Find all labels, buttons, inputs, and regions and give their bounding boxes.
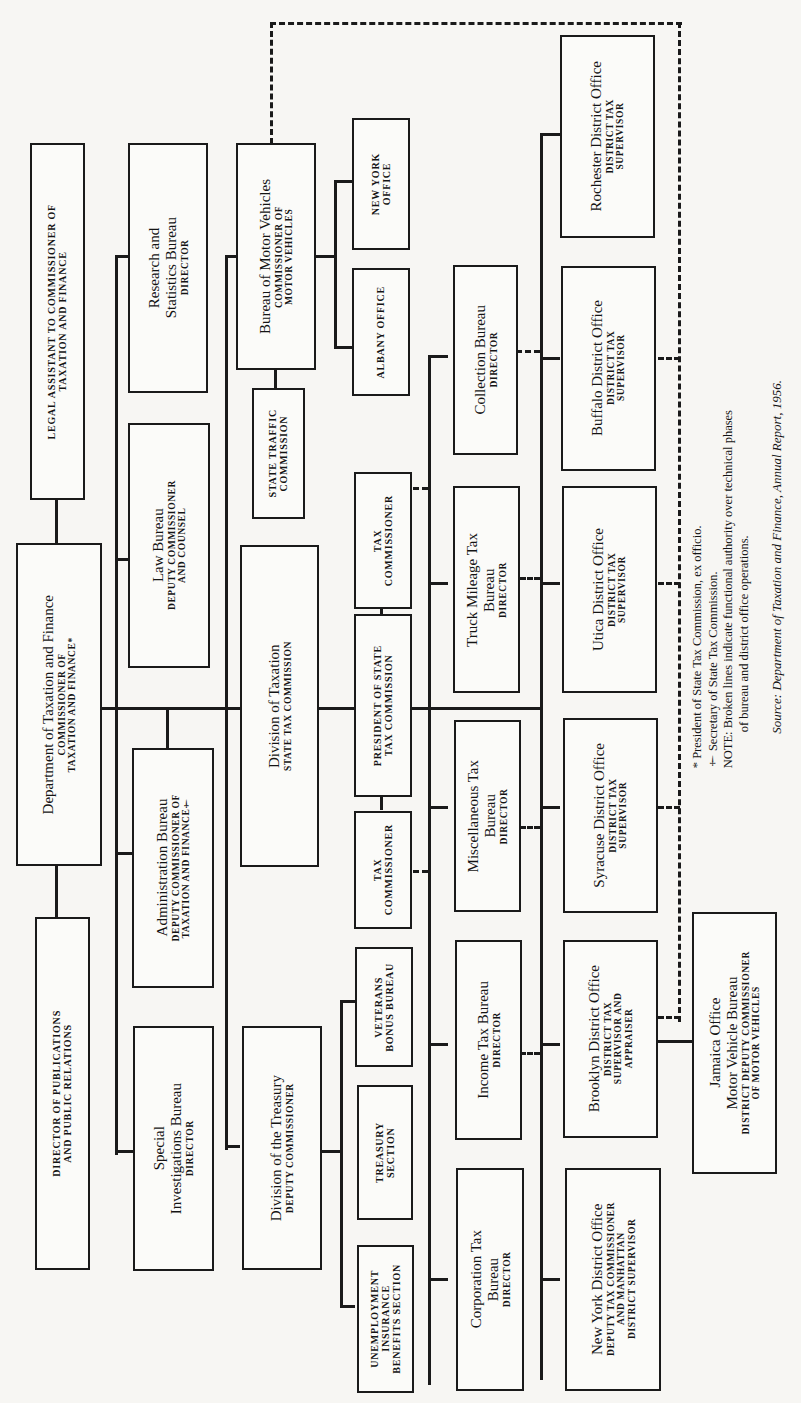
box-unemployment-insurance: UNEMPLOYMENTINSURANCEBENEFITS SECTION [357,1245,414,1393]
box-syracuse-district: Syracuse District OfficeDISTRICT TAXSUPE… [563,718,658,913]
box-rochester-district: Rochester District OfficeDISTRICT TAXSUP… [560,35,655,238]
connector-dept-pubrel [55,865,58,917]
connector-treasury [225,1145,240,1148]
dashed-left [270,22,273,144]
box-brooklyn-district: Brooklyn District OfficeDISTRICT TAXSUPE… [563,940,658,1138]
dashed-collection [516,350,540,353]
connector-rochester [540,133,560,136]
connector-district-spine [540,133,543,1380]
dashed-tc1 [413,487,428,490]
box-veterans-bonus: VETERANSBONUS BUREAU [355,947,413,1067]
connector-admin [166,707,169,749]
box-new-york-office: NEW YORKOFFICE [352,118,410,250]
connector-bmv-offices [314,255,334,258]
connector-offices-spine [334,180,337,348]
connector-collection [428,355,448,358]
box-utica-district: Utica District OfficeDISTRICT TAXSUPERVI… [562,486,657,693]
connector-income [428,1043,448,1046]
dashed-to-utica [658,582,680,585]
connector-treasury-spine [340,1000,343,1305]
box-corporation-tax: Corporation TaxBureauDIRECTOR [456,1168,524,1391]
dashed-misc [520,826,540,829]
dashed-right [678,22,681,1022]
dashed-to-syracuse [658,806,680,809]
footnote-note-cont: of bureau and district office operations… [737,410,753,768]
connector-president-tc2 [380,795,383,810]
box-motor-vehicles: Bureau of Motor VehiclesCOMMISSIONER OFM… [236,143,316,370]
connector-dept-legal [55,500,58,545]
connector-admin2 [115,852,133,855]
connector-brooklyn [540,1043,560,1046]
connector-utica [540,582,560,585]
footnote-dagger: † Secretary of State Tax Commission. [706,410,722,768]
connector-taxbureau-link [428,707,543,710]
connector-corp [428,1278,448,1281]
footnotes: * President of State Tax Commission, ex … [690,410,770,970]
box-collection-bureau: Collection BureauDIRECTOR [453,265,518,455]
connector-buffalo [540,357,560,360]
box-department: Department of Taxation and FinanceCOMMIS… [16,543,102,866]
dashed-truck [520,577,540,580]
box-legal-assistant: LEGAL ASSISTANT TO COMMISSIONER OFTAXATI… [30,143,85,500]
connector-special [115,1150,133,1153]
box-president-tax-commission: PRESIDENT OF STATETAX COMMISSION [354,614,412,797]
box-administration: Administration BureauDEPUTY COMMISSIONER… [132,748,214,988]
dashed-top [270,22,682,25]
source-citation: Source: Department of Taxation and Finan… [770,380,785,1060]
source-label: Source: [769,694,784,734]
connector-albany [334,346,352,349]
box-state-traffic: STATE TRAFFICCOMMISSION [252,388,305,519]
box-special-investigations: SpecialInvestigations BureauDIRECTOR [133,1026,214,1271]
dashed-to-buffalo [658,357,680,360]
connector-nydistrict [540,1278,560,1281]
box-buffalo-district: Buffalo District OfficeDISTRICT TAXSUPER… [561,266,656,471]
box-division-taxation: Division of TaxationSTATE TAX COMMISSION [240,545,319,867]
box-research: Research andStatistics BureauDIRECTOR [128,143,208,393]
connector-divisions-spine [225,255,228,1150]
box-treasury-section: TREASURYSECTION [357,1085,413,1220]
connector-syracuse [540,806,560,809]
connector-bureaus-spine [115,255,118,1155]
footnote-asterisk: * President of State Tax Commission, ex … [690,410,706,768]
box-new-york-district: New York District OfficeDEPUTY TAX COMMI… [565,1168,661,1391]
box-publications: DIRECTOR OF PUBLICATIONSAND PUBLIC RELAT… [35,917,90,1270]
connector-taxbureau-spine [428,355,431,1385]
box-albany-office: ALBANY OFFICE [352,268,410,396]
connector-treasury-sub [320,1150,342,1153]
dashed-to-brooklyn [658,1016,680,1019]
source-text: Department of Taxation and Finance, Annu… [769,380,784,691]
box-truck-mileage: Truck Mileage TaxBureauDIRECTOR [453,486,520,693]
connector-veterans [340,1000,355,1003]
connector-bmv-traffic [274,370,277,388]
connector-misc [428,806,448,809]
box-income-tax: Income Tax BureauDIRECTOR [455,940,522,1140]
box-division-treasury: Division of the TreasuryDEPUTY COMMISSIO… [242,1026,322,1270]
connector-nyoffice [334,180,352,183]
box-miscellaneous-tax: Miscellaneous TaxBureauDIRECTOR [454,720,521,912]
connector-brooklyn-jamaica [658,1040,693,1043]
dashed-income [520,1052,540,1055]
box-law-bureau: Law BureauDEPUTY COMMISSIONERAND COUNSEL [128,423,210,668]
connector-unemp [340,1305,355,1308]
connector-truck [428,582,448,585]
footnote-note: NOTE: Broken lines indicate functional a… [721,410,737,768]
box-tax-commissioner-2: TAXCOMMISSIONER [354,811,412,929]
dashed-tc2 [413,870,428,873]
box-tax-commissioner-1: TAXCOMMISSIONER [354,472,412,609]
